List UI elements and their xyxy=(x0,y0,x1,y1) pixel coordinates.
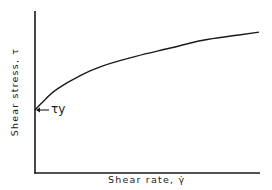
x-axis-label: Shear rate, γ̇ xyxy=(108,174,185,185)
chart-canvas xyxy=(0,0,272,190)
yield-stress-annotation: τy xyxy=(51,102,65,116)
yield-stress-arrow-icon xyxy=(36,108,49,113)
y-axis-label: Shear stress, τ xyxy=(9,48,20,137)
shear-stress-curve xyxy=(35,32,259,110)
